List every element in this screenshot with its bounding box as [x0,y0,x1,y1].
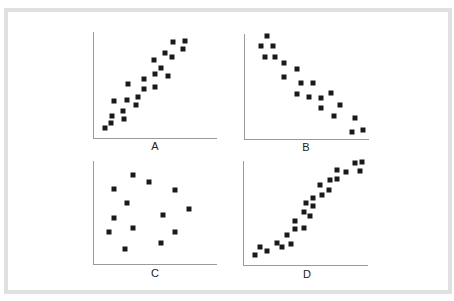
chart-label-a: A [151,141,158,152]
data-point [136,95,141,100]
scatter-plot-b: B [244,34,369,140]
data-point [293,219,298,224]
data-point [265,249,270,254]
data-point [126,81,131,86]
data-point [288,241,293,246]
data-point [311,81,316,86]
data-point [153,71,158,76]
data-point [252,253,257,258]
data-point [298,81,303,86]
data-point [111,215,116,220]
y-axis [243,161,244,266]
data-point [259,43,264,48]
data-point [258,245,263,250]
data-point [306,94,311,99]
data-point [125,98,130,103]
data-point [344,169,349,174]
data-point [107,230,112,235]
x-axis [93,264,217,265]
data-point [160,212,165,217]
data-point [141,87,146,92]
data-point [130,226,135,231]
data-point [111,99,116,104]
x-axis [93,138,217,139]
data-point [295,67,300,72]
data-point [281,61,286,66]
y-axis [93,32,94,139]
scatter-plot-a: A [93,32,217,139]
data-point [281,75,286,80]
data-point [173,187,178,192]
y-axis [244,34,245,140]
data-point [130,172,135,177]
data-point [109,121,114,126]
data-point [302,209,307,214]
data-point [262,54,267,59]
data-point [331,114,336,119]
data-point [170,39,175,44]
data-point [320,193,325,198]
data-point [295,91,300,96]
data-point [349,130,354,135]
data-point [311,203,316,208]
data-point [121,117,126,122]
data-point [335,167,340,172]
x-axis [243,265,368,266]
data-point [120,109,125,114]
data-point [285,232,290,237]
data-point [360,160,365,165]
figure-frame [4,8,452,294]
data-point [303,200,308,205]
data-point [102,126,107,131]
data-point [319,105,324,110]
data-point [361,128,366,133]
data-point [279,245,284,250]
data-point [329,90,334,95]
data-point [125,201,130,206]
scatter-plot-c: C [93,161,217,265]
chart-label-d: D [303,269,311,280]
x-axis [244,139,369,140]
data-point [163,50,168,55]
data-point [353,116,358,121]
data-point [141,76,146,81]
data-point [122,247,127,252]
data-point [311,195,316,200]
data-point [335,176,340,181]
data-point [183,38,188,43]
scatter-plot-d: D [243,161,368,266]
data-point [264,34,269,39]
data-point [328,178,333,183]
data-point [293,226,298,231]
data-point [158,65,163,70]
chart-label-b: B [302,142,309,153]
data-point [153,85,158,90]
data-point [186,207,191,212]
data-point [166,73,171,78]
data-point [357,168,362,173]
data-point [110,114,115,119]
data-point [353,161,358,166]
data-point [308,214,313,219]
data-point [147,180,152,185]
data-point [133,103,138,108]
data-point [181,46,186,51]
data-point [318,183,323,188]
data-point [151,57,156,62]
data-point [111,186,116,191]
data-point [327,188,332,193]
data-point [270,43,275,48]
data-point [173,230,178,235]
data-point [169,54,174,59]
y-axis [93,161,94,265]
data-point [338,102,343,107]
data-point [158,240,163,245]
data-point [302,225,307,230]
data-point [319,95,324,100]
data-point [272,54,277,59]
chart-label-c: C [151,268,159,279]
